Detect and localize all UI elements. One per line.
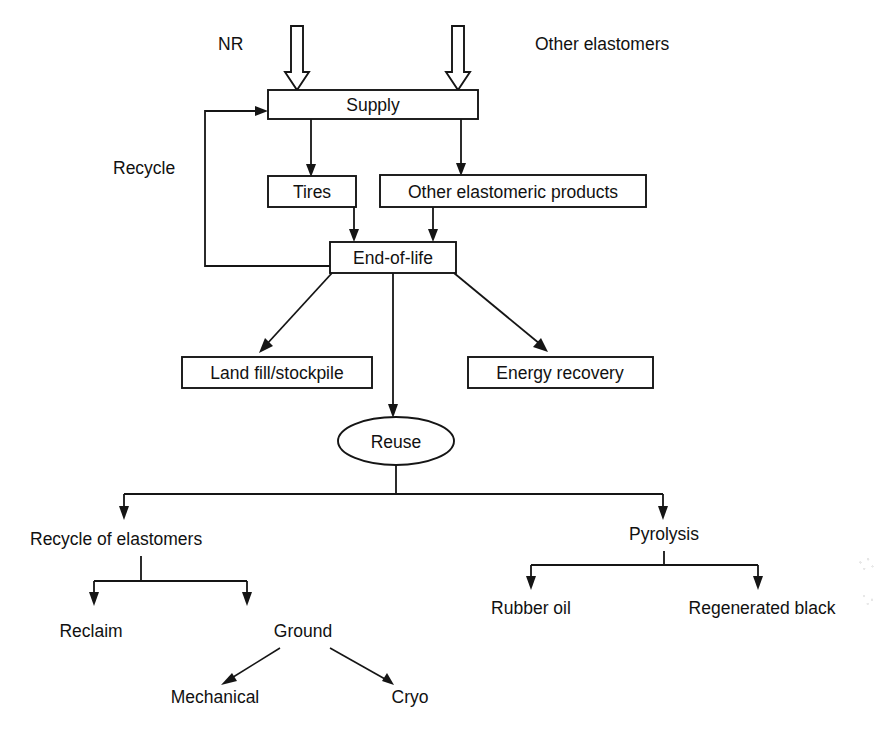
edge-end-of-life-to-land-fill <box>259 273 332 353</box>
node-rubber-oil-label[interactable]: Rubber oil <box>491 598 571 618</box>
edge-other-elastomeric-products-to-end-of-life <box>428 207 438 242</box>
flowchart-canvas: NR Other elastomers Supply Tires <box>0 0 896 744</box>
node-reclaim-label[interactable]: Reclaim <box>59 621 122 641</box>
node-ground-label[interactable]: Ground <box>274 621 332 641</box>
node-land-fill-stockpile-label: Land fill/stockpile <box>210 363 343 383</box>
node-tires-label: Tires <box>293 182 331 202</box>
hollow-down-arrow-nr <box>285 26 309 90</box>
node-land-fill-stockpile[interactable]: Land fill/stockpile <box>182 357 372 388</box>
edge-label-recycle: Recycle <box>113 158 175 178</box>
flowchart-svg: NR Other elastomers Supply Tires <box>0 0 896 744</box>
edge-pyrolysis-split <box>526 551 763 590</box>
node-energy-recovery-label: Energy recovery <box>496 363 624 383</box>
edge-recycle-of-elastomers-split <box>89 556 252 606</box>
input-label-other-elastomers: Other elastomers <box>535 34 669 54</box>
edge-ground-to-cryo <box>330 648 394 685</box>
node-mechanical-label[interactable]: Mechanical <box>171 687 260 707</box>
input-label-nr: NR <box>218 34 243 54</box>
edge-tires-to-end-of-life <box>349 207 359 242</box>
edge-end-of-life-to-energy-recovery <box>454 273 548 352</box>
edge-ground-to-mechanical <box>221 648 280 685</box>
node-reuse-label: Reuse <box>371 432 422 452</box>
node-regenerated-black-label[interactable]: Regenerated black <box>689 598 836 618</box>
edge-supply-to-tires <box>306 119 316 177</box>
node-tires[interactable]: Tires <box>268 176 356 207</box>
node-pyrolysis-label[interactable]: Pyrolysis <box>629 524 699 544</box>
edge-supply-to-other-elastomeric-products <box>456 119 466 176</box>
node-recycle-of-elastomers-label[interactable]: Recycle of elastomers <box>30 529 202 549</box>
edge-reuse-split <box>119 465 668 520</box>
node-cryo-label[interactable]: Cryo <box>392 687 429 707</box>
node-other-elastomeric-products-label: Other elastomeric products <box>408 182 618 202</box>
node-reuse[interactable]: Reuse <box>338 417 454 465</box>
node-supply-label: Supply <box>346 95 400 115</box>
node-end-of-life-label: End-of-life <box>353 248 433 268</box>
node-supply[interactable]: Supply <box>268 90 478 119</box>
node-other-elastomeric-products[interactable]: Other elastomeric products <box>380 175 646 207</box>
hollow-down-arrow-other-elastomers <box>446 26 470 90</box>
node-energy-recovery[interactable]: Energy recovery <box>468 357 653 388</box>
edge-end-of-life-to-reuse <box>388 273 398 418</box>
node-end-of-life[interactable]: End-of-life <box>330 242 456 273</box>
